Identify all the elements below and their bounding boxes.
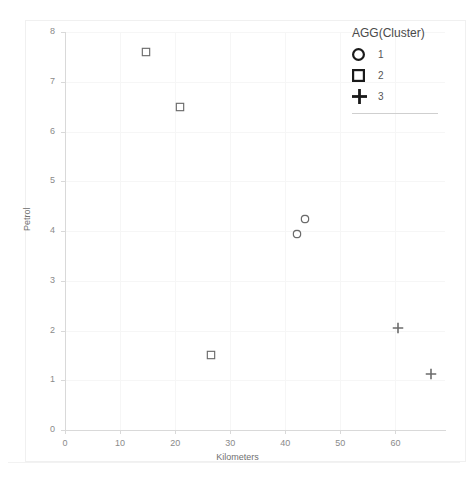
gridline-horizontal (65, 231, 445, 232)
y-axis-tick-label: 4 (31, 225, 55, 235)
gridline-horizontal (65, 331, 445, 332)
y-axis-tick-label: 7 (31, 76, 55, 86)
y-axis-tick-label: 3 (31, 275, 55, 285)
legend-title: AGG(Cluster) (352, 26, 456, 40)
x-axis-tick-label: 0 (50, 438, 80, 448)
square-icon (352, 69, 374, 82)
x-axis-title: Kilometers (0, 452, 475, 462)
legend-item-1[interactable]: 1 (352, 44, 456, 65)
gridline-vertical (120, 32, 121, 430)
legend-divider (352, 113, 438, 114)
card-bottom-edge (8, 462, 460, 463)
y-axis-line (65, 32, 66, 431)
y-axis-title: Petrol (22, 207, 32, 231)
data-point-square[interactable] (206, 351, 215, 360)
legend-item-3[interactable]: 3 (352, 86, 456, 107)
y-axis-tick-label: 0 (31, 424, 55, 434)
data-point-plus[interactable] (392, 323, 403, 334)
data-point-circle[interactable] (293, 229, 302, 238)
scatter-plot-visualization: 0123456780102030405060 Petrol Kilometers… (0, 0, 475, 486)
x-axis-tick-label: 30 (215, 438, 245, 448)
data-point-circle[interactable] (301, 214, 310, 223)
y-axis-tick-label: 8 (31, 26, 55, 36)
gridline-vertical (175, 32, 176, 430)
gridline-horizontal (65, 380, 445, 381)
legend-item-label: 1 (378, 49, 384, 60)
plus-icon (352, 89, 374, 104)
x-axis-tick-label: 60 (380, 438, 410, 448)
y-axis-tick-label: 1 (31, 374, 55, 384)
gridline-vertical (340, 32, 341, 430)
gridline-horizontal (65, 281, 445, 282)
gridline-vertical (285, 32, 286, 430)
x-axis-tick-label: 10 (105, 438, 135, 448)
circle-icon (352, 48, 374, 61)
gridline-horizontal (65, 132, 445, 133)
legend-item-label: 3 (378, 91, 384, 102)
x-axis-line (65, 430, 446, 431)
data-point-plus[interactable] (425, 369, 436, 380)
legend-item-label: 2 (378, 70, 384, 81)
x-axis-tick-label: 40 (270, 438, 300, 448)
legend-item-2[interactable]: 2 (352, 65, 456, 86)
gridline-vertical (230, 32, 231, 430)
legend: AGG(Cluster) 123 (352, 26, 456, 114)
x-axis-tick-label: 50 (325, 438, 355, 448)
data-point-square[interactable] (176, 102, 185, 111)
legend-entries: 123 (352, 44, 456, 107)
y-axis-tick-label: 5 (31, 175, 55, 185)
y-axis-tick-label: 2 (31, 325, 55, 335)
data-point-square[interactable] (141, 47, 150, 56)
gridline-horizontal (65, 181, 445, 182)
y-axis-tick-label: 6 (31, 126, 55, 136)
x-axis-tick-label: 20 (160, 438, 190, 448)
